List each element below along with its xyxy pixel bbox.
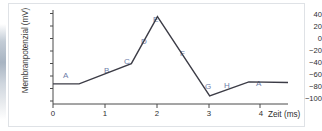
axes-group: [53, 10, 288, 104]
x-tick-marks: [53, 104, 260, 108]
plot-area: [0, 0, 322, 131]
chart-figure: Membranpotenzial (mV) 40 20 0 −20 −40 −6…: [0, 0, 322, 131]
action-potential-curve: [53, 17, 288, 96]
